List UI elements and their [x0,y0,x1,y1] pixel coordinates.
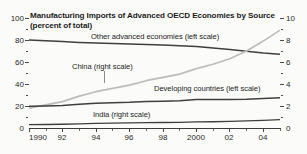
x-tick-label-96: 96 [125,133,134,142]
x-tick-2002 [229,129,230,132]
x-axis-line [29,128,281,129]
x-tick-1999 [179,129,180,131]
x-tick-2003 [246,129,247,131]
annotation-other-advanced: Other advanced economies (left scale) [91,32,219,41]
x-tick-label-02: 02 [225,133,234,142]
x-tick-1990 [29,129,30,132]
annotation-india: India (right scale) [93,110,150,119]
chart-container: Manufacturing Imports of Advanced OECD E… [0,0,307,154]
x-tick-label-1990: 1990 [29,133,47,142]
x-tick-2005 [280,129,281,131]
x-tick-2000 [196,129,197,132]
x-tick-1998 [163,129,164,132]
annotation-developing: Developing countries (left scale) [154,84,260,93]
x-tick-1992 [62,129,63,132]
x-tick-1997 [146,129,147,131]
x-tick-1996 [129,129,130,132]
x-tick-label-2000: 2000 [187,133,205,142]
x-tick-2001 [213,129,214,131]
series-line-india [29,120,280,125]
x-tick-1994 [96,129,97,132]
x-tick-2004 [263,129,264,132]
x-tick-label-92: 92 [58,133,67,142]
x-tick-label-04: 04 [259,133,268,142]
x-tick-label-94: 94 [92,133,101,142]
series-line-developing [29,98,280,106]
x-tick-1993 [79,129,80,131]
x-tick-label-98: 98 [159,133,168,142]
annotation-china-leader [104,71,105,83]
x-tick-1995 [112,129,113,131]
x-tick-1991 [46,129,47,131]
annotation-china: China (right scale) [72,62,133,71]
